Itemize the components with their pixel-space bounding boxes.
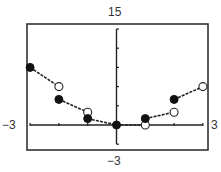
filled-point: [170, 95, 178, 103]
open-point: [55, 83, 63, 91]
graph-segment: [59, 99, 88, 112]
filled-point: [55, 95, 63, 103]
filled-point: [26, 63, 34, 71]
open-point: [199, 83, 207, 91]
graph-segment: [174, 87, 203, 100]
open-point: [170, 108, 178, 116]
graph-segment: [30, 67, 59, 86]
plot-area: [0, 0, 221, 172]
filled-point: [141, 115, 149, 123]
filled-point: [113, 121, 121, 129]
filled-point: [84, 115, 92, 123]
